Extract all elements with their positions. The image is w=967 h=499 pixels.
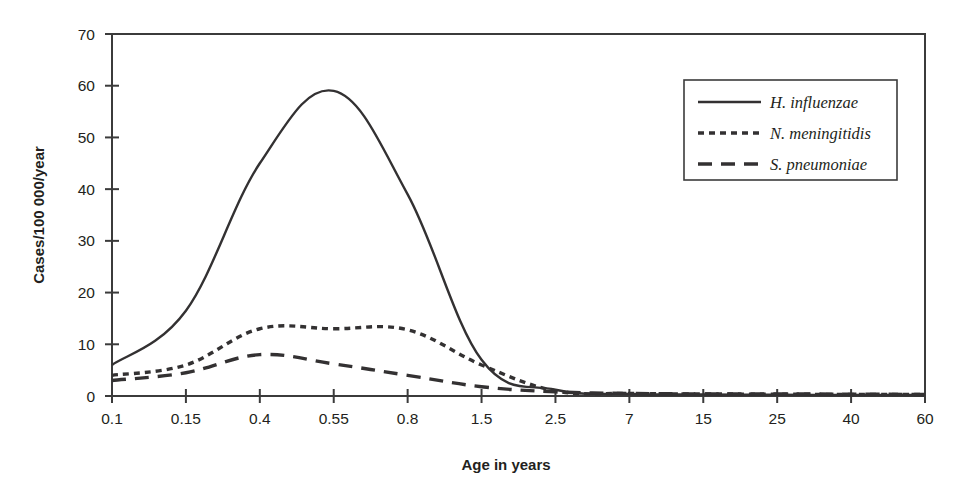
x-tick-label: 60 [916, 410, 934, 427]
x-tick-label: 25 [769, 410, 786, 427]
x-axis-title: Age in years [461, 456, 550, 473]
legend-label: N. meningitidis [769, 124, 871, 143]
y-tick-label: 70 [78, 26, 96, 43]
y-tick-label: 60 [78, 77, 96, 94]
x-tick-label: 0.1 [101, 410, 123, 427]
chart-legend: H. influenzaeN. meningitidisS. pneumonia… [684, 80, 897, 180]
x-tick-label: 1.5 [471, 410, 493, 427]
legend-label: H. influenzae [769, 93, 858, 112]
x-tick-label: 7 [625, 410, 634, 427]
x-tick-label: 0.15 [171, 410, 201, 427]
x-tick-label: 0.8 [397, 410, 419, 427]
y-tick-label: 30 [78, 232, 96, 249]
x-tick-label: 40 [842, 410, 860, 427]
x-tick-label: 0.55 [319, 410, 349, 427]
x-tick-label: 0.4 [249, 410, 271, 427]
chart-canvas: 010203040506070 0.10.150.40.550.81.52.57… [0, 0, 967, 499]
y-tick-label: 0 [86, 388, 95, 405]
y-axis-title: Cases/100 000/year [30, 146, 47, 284]
chart-figure: 010203040506070 0.10.150.40.550.81.52.57… [0, 0, 967, 499]
x-tick-label: 15 [695, 410, 712, 427]
y-tick-label: 10 [78, 336, 96, 353]
legend-label: S. pneumoniae [770, 155, 867, 174]
y-tick-label: 50 [78, 129, 96, 146]
y-tick-label: 20 [78, 284, 96, 301]
series-curve [112, 354, 925, 394]
x-tick-label: 2.5 [545, 410, 567, 427]
y-tick-label: 40 [78, 181, 96, 198]
